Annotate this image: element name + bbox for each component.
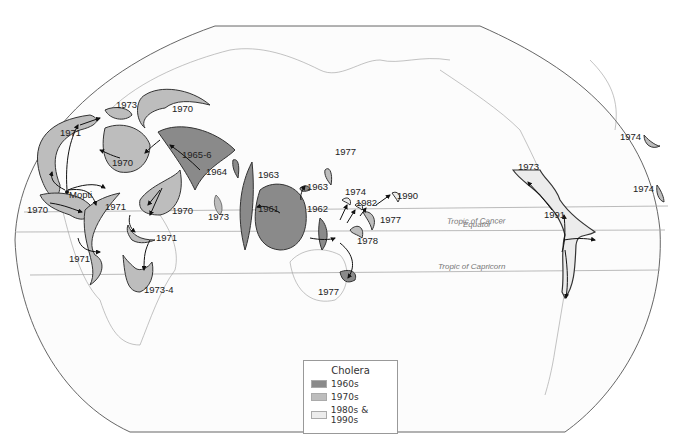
svg-text:1977: 1977 [318, 286, 339, 297]
svg-text:1963: 1963 [258, 169, 279, 180]
swatch-1980s-1990s [311, 411, 327, 419]
svg-text:1971: 1971 [60, 127, 81, 138]
legend-item-1960s: 1960s [311, 379, 397, 389]
svg-text:1973-4: 1973-4 [144, 284, 174, 295]
svg-text:1978: 1978 [357, 235, 378, 246]
svg-text:1990: 1990 [397, 190, 418, 201]
svg-text:1982: 1982 [356, 197, 377, 208]
svg-text:1970: 1970 [112, 157, 133, 168]
svg-text:1973: 1973 [208, 211, 229, 222]
svg-text:1991: 1991 [544, 209, 565, 220]
label-equator: Equator [463, 220, 491, 229]
legend-item-1970s: 1970s [311, 392, 397, 402]
legend-item-1980s-1990s: 1980s & 1990s [311, 405, 397, 425]
svg-text:1974: 1974 [633, 183, 654, 194]
legend-title: Cholera [304, 365, 397, 376]
svg-text:1971: 1971 [105, 201, 126, 212]
region-1970s [657, 185, 664, 202]
legend: Cholera 1960s 1970s 1980s & 1990s [303, 360, 398, 434]
region-1970s [644, 135, 660, 147]
label-tropic-of-capricorn: Tropic of Capricorn [438, 262, 506, 271]
svg-text:1965-6: 1965-6 [182, 149, 212, 160]
svg-text:1964: 1964 [206, 166, 227, 177]
legend-label: 1960s [331, 379, 359, 389]
region-1960s [255, 184, 306, 250]
swatch-1970s [311, 393, 327, 401]
legend-label: 1980s & 1990s [331, 405, 397, 425]
svg-text:1970: 1970 [172, 103, 193, 114]
svg-text:1963: 1963 [307, 181, 328, 192]
svg-text:1977: 1977 [380, 214, 401, 225]
svg-text:1973: 1973 [518, 161, 539, 172]
legend-label: 1970s [331, 392, 359, 402]
svg-text:1970: 1970 [172, 205, 193, 216]
svg-text:1974: 1974 [345, 186, 366, 197]
swatch-1960s [311, 380, 327, 388]
svg-text:1977: 1977 [335, 146, 356, 157]
svg-text:1970: 1970 [27, 204, 48, 215]
svg-text:1971: 1971 [69, 253, 90, 264]
svg-text:1971: 1971 [156, 232, 177, 243]
svg-text:1973: 1973 [116, 99, 137, 110]
svg-text:1974: 1974 [620, 131, 641, 142]
svg-text:1961: 1961 [258, 203, 279, 214]
svg-text:1962: 1962 [307, 203, 328, 214]
place-mopti: Mopti [69, 189, 92, 200]
